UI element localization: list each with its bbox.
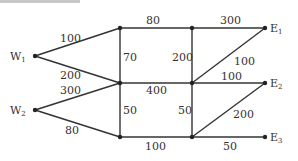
weight-a-b: 80 bbox=[146, 14, 160, 27]
node-g bbox=[190, 135, 194, 139]
weight-f-g: 100 bbox=[145, 140, 166, 153]
weight-a-c: 70 bbox=[123, 51, 137, 64]
node-b bbox=[190, 26, 194, 30]
label-e2: E2 bbox=[270, 77, 283, 91]
weight-d-g: 50 bbox=[178, 104, 192, 117]
node-e3 bbox=[263, 135, 267, 139]
node-f bbox=[118, 135, 122, 139]
node-e1 bbox=[263, 26, 267, 30]
weight-w2-f: 80 bbox=[65, 124, 79, 137]
weight-b-e1: 300 bbox=[220, 14, 241, 27]
label-e1: E1 bbox=[270, 22, 283, 36]
node-c bbox=[118, 81, 122, 85]
weight-g-e3: 50 bbox=[223, 140, 237, 153]
weight-d-e1: 100 bbox=[234, 55, 255, 68]
edge-g-e2 bbox=[192, 83, 265, 137]
weight-c-d: 400 bbox=[146, 84, 167, 97]
weight-w2-c: 300 bbox=[60, 84, 81, 97]
network-diagram: W1 W2 E1 E2 E3 100 200 300 80 80 300 70 … bbox=[0, 0, 298, 161]
weight-b-d: 200 bbox=[172, 51, 193, 64]
node-d bbox=[190, 81, 194, 85]
node-w1 bbox=[33, 54, 37, 58]
node-a bbox=[118, 26, 122, 30]
label-e3: E3 bbox=[270, 131, 283, 145]
weight-c-f: 50 bbox=[123, 104, 137, 117]
node-e2 bbox=[263, 81, 267, 85]
label-w1: W1 bbox=[10, 50, 26, 64]
weight-g-e2: 200 bbox=[233, 108, 254, 121]
weight-w1-c: 200 bbox=[60, 69, 81, 82]
label-w2: W2 bbox=[10, 104, 26, 118]
node-w2 bbox=[33, 108, 37, 112]
weight-w1-a: 100 bbox=[60, 32, 81, 45]
weight-d-e2: 100 bbox=[221, 70, 242, 83]
